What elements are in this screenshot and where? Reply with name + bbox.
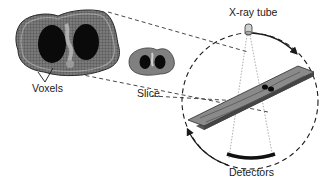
xray-tube <box>245 24 252 35</box>
xray-tube-label: X-ray tube <box>229 6 277 18</box>
voxel-cross-section <box>16 10 120 76</box>
right-lung <box>73 24 99 60</box>
detectors-label: Detectors <box>229 166 274 178</box>
slice-image <box>129 48 174 75</box>
patient-table <box>188 66 314 130</box>
slice-label: Slice <box>137 87 160 99</box>
left-lung <box>38 25 66 63</box>
voxels-label: Voxels <box>32 82 63 94</box>
detector-array <box>227 154 275 158</box>
rotation-arrow-bottom <box>188 130 228 165</box>
rotation-arrow-top <box>252 33 296 53</box>
